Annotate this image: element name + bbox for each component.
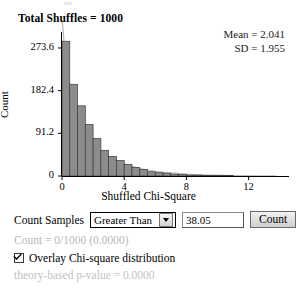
y-axis-tick-label: 182.4 [10,84,54,95]
histogram-bar [132,168,140,176]
y-axis-label: Count [0,91,10,118]
histogram-bar [85,125,93,176]
overlay-checkbox-label: Overlay Chi-square distribution [29,252,175,264]
threshold-input-value: 38.05 [186,213,211,227]
histogram-bar [140,169,148,176]
threshold-input[interactable]: 38.05 [182,212,244,228]
y-axis-tick-label: 91.2 [10,126,54,137]
histogram-bar [163,173,171,176]
histogram-bar [109,156,117,176]
count-result-text: Count = 0/1000 (0.0000) [14,234,128,246]
histogram-plot: Count 091.2182.4273.6 04812 [0,22,297,184]
x-axis-label: Shuffled Chi-Square [0,190,297,202]
histogram-bar [70,84,78,176]
histogram-bar [78,106,86,176]
overlay-checkbox-row[interactable]: Overlay Chi-square distribution [14,252,175,264]
histogram-bar [101,150,109,176]
y-axis-tick-label: 0 [10,169,54,180]
histogram-bar [148,172,156,176]
y-axis-tick-label: 273.6 [10,41,54,52]
histogram-bar [171,174,179,176]
histogram-bar [179,175,187,176]
histogram-bar [62,41,70,176]
overlay-checkbox[interactable] [14,253,24,263]
chevron-down-icon[interactable] [159,213,173,227]
histogram-bar [155,173,163,176]
histogram-bar [93,139,101,176]
theory-pvalue-text: theory-based p-value = 0.0000 [14,269,155,281]
chi-square-simulation-panel: Total Shuffles = 1000 Mean = 2.041 SD = … [0,0,297,290]
histogram-bar [186,175,194,176]
histogram-bar [124,164,132,176]
decorative-speck [64,2,72,5]
count-samples-label: Count Samples [14,214,84,226]
count-samples-controls: Count Samples Greater Than 38.05 Count [14,211,296,228]
histogram-bar [116,161,124,176]
direction-select[interactable]: Greater Than [90,212,176,228]
direction-select-value: Greater Than [94,213,152,227]
histogram-bar [194,175,202,176]
count-button[interactable]: Count [250,211,296,228]
